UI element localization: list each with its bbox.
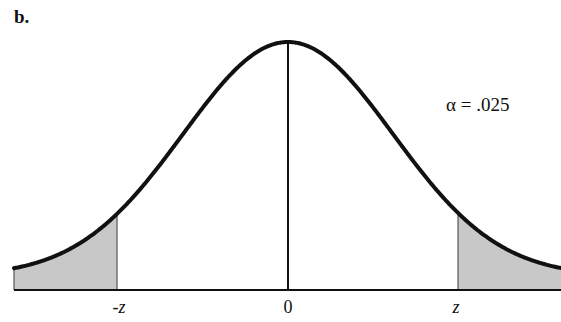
normal-distribution-figure: b. α = .025 -z 0 z <box>0 0 561 322</box>
normal-curve-plot <box>0 0 561 322</box>
alpha-annotation: α = .025 <box>446 94 509 116</box>
tick-label-z: z <box>452 297 459 318</box>
tick-label-neg-z: -z <box>113 297 126 318</box>
panel-label: b. <box>14 6 29 28</box>
tick-label-zero: 0 <box>284 297 293 318</box>
